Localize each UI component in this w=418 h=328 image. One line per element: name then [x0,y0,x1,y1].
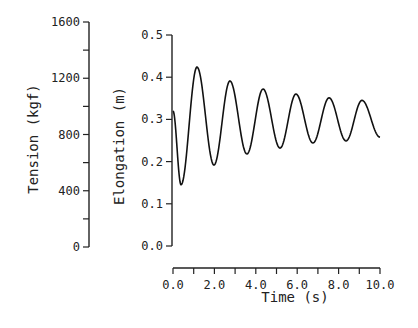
elongation-axis: 0.00.10.20.30.40.5 [141,28,172,253]
time-tick-label: 2.0 [204,278,226,292]
elongation-tick-label: 0.1 [141,197,163,211]
elongation-line [173,67,380,185]
tension-tick-label: 0 [73,240,80,254]
tension-tick-label: 800 [58,128,80,142]
tension-axis-title: Tension (kgf) [25,84,41,194]
tension-axis: 040080012001600 [51,15,89,254]
tension-tick-label: 1600 [51,15,80,29]
tension-tick-label: 1200 [51,71,80,85]
elongation-tick-label: 0.0 [141,239,163,253]
time-tick-label: 0.0 [162,278,184,292]
elongation-tick-label: 0.4 [141,70,163,84]
time-tick-label: 8.0 [328,278,350,292]
tension-tick-label: 400 [58,184,80,198]
time-tick-label: 10.0 [366,278,395,292]
elongation-axis-title: Elongation (m) [111,87,127,205]
elongation-tick-label: 0.2 [141,155,163,169]
chart: 040080012001600 Tension (kgf) 0.00.10.20… [0,0,418,328]
elongation-tick-label: 0.5 [141,28,163,42]
elongation-tick-label: 0.3 [141,112,163,126]
time-axis-title: Time (s) [261,289,328,305]
